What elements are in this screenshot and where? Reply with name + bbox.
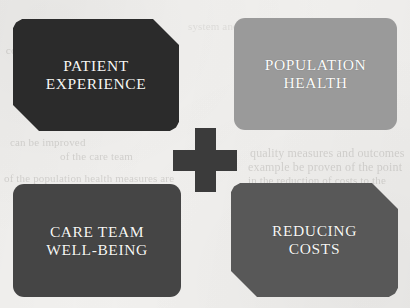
plus-icon xyxy=(173,128,237,192)
quadrant-label: REDUCING COSTS xyxy=(272,222,357,258)
quadrant-label: PATIENT EXPERIENCE xyxy=(46,57,147,93)
quadrant-label: POPULATION HEALTH xyxy=(265,56,367,92)
quadrant-label-line-1: POPULATION xyxy=(265,56,367,73)
quadrant-label-line-1: CARE TEAM xyxy=(50,223,144,240)
quadrant-patient-experience[interactable]: PATIENT EXPERIENCE xyxy=(13,19,179,131)
quadrant-label: CARE TEAM WELL-BEING xyxy=(46,223,148,259)
quadrant-label-line-1: PATIENT xyxy=(63,57,129,74)
quadrant-population-health[interactable]: POPULATION HEALTH xyxy=(234,18,397,130)
plus-icon-horizontal-bar xyxy=(173,150,237,171)
quadrant-label-line-1: REDUCING xyxy=(272,222,357,239)
quadrant-care-team-well-being[interactable]: CARE TEAM WELL-BEING xyxy=(13,184,181,297)
quadrant-label-line-2: COSTS xyxy=(289,240,340,257)
quadrant-label-line-2: WELL-BEING xyxy=(46,241,148,258)
quadrant-label-line-2: EXPERIENCE xyxy=(46,75,147,92)
quadrant-reducing-costs[interactable]: REDUCING COSTS xyxy=(231,183,398,297)
quadrant-label-line-2: HEALTH xyxy=(283,74,347,91)
